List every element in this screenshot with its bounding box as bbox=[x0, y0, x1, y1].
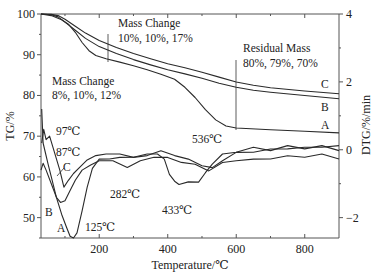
x-tick-label: 200 bbox=[90, 242, 108, 256]
tg-curve-label-b: B bbox=[321, 101, 329, 113]
dtg-curve-label-c: C bbox=[63, 161, 71, 173]
peak-label-87: 87℃ bbox=[56, 146, 81, 158]
mass-change-2-values: 10%, 10%, 17% bbox=[118, 32, 193, 45]
y2-tick-label: 0 bbox=[346, 143, 352, 157]
y-tick-label: 90 bbox=[23, 48, 35, 62]
y-tick-label: 50 bbox=[23, 211, 35, 225]
y2-tick-label: 4 bbox=[346, 7, 352, 21]
dtg-curve-c bbox=[42, 129, 339, 187]
mass-change-2-title: Mass Change bbox=[118, 17, 180, 30]
dtg-curve-a bbox=[42, 109, 339, 238]
y2-tick-label: −2 bbox=[346, 211, 359, 225]
x-tick-label: 600 bbox=[227, 242, 245, 256]
tg-dtg-chart: 2004006008005060708090100−2024 Temperatu… bbox=[0, 0, 378, 280]
y-tick-label: 70 bbox=[23, 129, 35, 143]
x-tick-label: 400 bbox=[159, 242, 177, 256]
y2-tick-label: 2 bbox=[346, 75, 352, 89]
residual-mass-title: Residual Mass bbox=[243, 42, 311, 54]
peak-label-536: 536℃ bbox=[192, 133, 222, 145]
peak-label-433: 433℃ bbox=[162, 204, 192, 216]
peak-label-282: 282℃ bbox=[110, 188, 140, 200]
y-axis-title: TG/% bbox=[3, 111, 17, 140]
dtg-curve-label-b: B bbox=[45, 206, 53, 218]
tg-curve-label-c: C bbox=[321, 78, 329, 90]
peak-label-125: 125℃ bbox=[85, 221, 115, 233]
y-tick-label: 80 bbox=[23, 88, 35, 102]
residual-mass-values: 80%, 79%, 70% bbox=[243, 57, 318, 70]
mass-change-1-title: Mass Change bbox=[52, 75, 114, 88]
tg-curve-label-a: A bbox=[321, 119, 330, 131]
x-tick-label: 800 bbox=[296, 242, 314, 256]
y-tick-label: 60 bbox=[23, 170, 35, 184]
dtg-curve-label-a: A bbox=[57, 222, 66, 234]
x-axis-title: Temperature/℃ bbox=[151, 258, 228, 272]
y-tick-label: 100 bbox=[17, 7, 35, 21]
y2-axis-title: DTG/%/min bbox=[359, 95, 373, 155]
peak-label-97: 97℃ bbox=[56, 125, 81, 137]
mass-change-1-values: 8%, 10%, 12% bbox=[52, 89, 121, 102]
